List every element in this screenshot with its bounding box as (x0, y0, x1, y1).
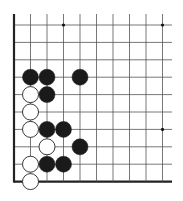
black-stone (39, 87, 55, 103)
star-point-icon (161, 23, 164, 26)
white-stone (23, 87, 39, 103)
black-stone (56, 156, 72, 172)
black-stone (39, 156, 55, 172)
black-stone (23, 69, 39, 85)
star-point-icon (161, 128, 164, 131)
white-stone (23, 121, 39, 137)
white-stone (23, 104, 39, 120)
white-stone (23, 174, 39, 190)
black-stone (39, 121, 55, 137)
black-stone (72, 69, 88, 85)
star-point-icon (62, 23, 65, 26)
black-stone (72, 139, 88, 155)
white-stone (23, 156, 39, 172)
go-board[interactable] (0, 0, 183, 201)
black-stone (39, 69, 55, 85)
white-stone (39, 139, 55, 155)
black-stone (56, 121, 72, 137)
